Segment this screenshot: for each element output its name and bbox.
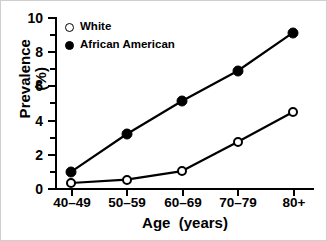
data-point-white-80+	[288, 107, 298, 117]
chart-figure: White African American 10 8 6 4 2 0 40–4…	[0, 0, 327, 241]
data-point-african-american-60–69	[177, 95, 188, 106]
data-point-white-70–79	[233, 137, 243, 147]
data-point-african-american-80+	[288, 27, 299, 38]
series-lines	[1, 1, 327, 241]
data-point-white-60–69	[177, 166, 187, 176]
data-point-african-american-40–49	[66, 166, 77, 177]
data-point-white-40–49	[66, 178, 76, 188]
data-point-african-american-70–79	[232, 66, 243, 77]
data-point-white-50–59	[122, 175, 132, 185]
data-point-african-american-50–59	[121, 129, 132, 140]
